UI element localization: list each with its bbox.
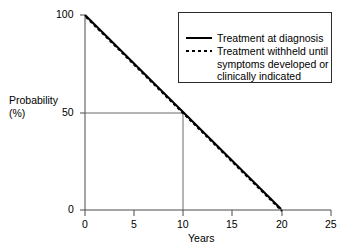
x-tick-label-20: 20 [276,219,288,230]
y-axis-title-line1: Probability [9,94,58,107]
legend-dashed-line-icon [186,45,212,56]
legend-entry-2-label-line2: symptoms developed or [217,58,328,71]
legend-entry-treatment-withheld: Treatment withheld until symptoms develo… [186,45,328,83]
chart-figure: 100 50 0 0 5 10 15 20 25 Years Probabili… [0,0,342,248]
legend-entry-2-label-block: Treatment withheld until symptoms develo… [217,45,328,83]
x-tick-label-0: 0 [82,219,88,230]
legend-solid-line-icon [186,32,212,43]
legend-entry-treatment-at-diagnosis: Treatment at diagnosis [186,32,323,45]
legend-entry-2-label-line3: clinically indicated [217,70,328,83]
legend-entry-1-label: Treatment at diagnosis [217,32,323,45]
y-tick-label-50: 50 [62,107,74,118]
x-axis-title: Years [188,232,214,244]
legend-entry-2-label-line1: Treatment withheld until [217,45,328,58]
x-tick-label-10: 10 [177,219,189,230]
x-tick-label-5: 5 [131,219,137,230]
chart-legend: Treatment at diagnosis Treatment withhel… [178,12,332,83]
y-axis-title-line2: (%) [9,107,58,120]
y-tick-label-100: 100 [56,9,74,20]
y-tick-label-0: 0 [68,204,74,215]
y-axis-title: Probability (%) [9,94,58,120]
x-tick-label-15: 15 [226,219,238,230]
x-tick-label-25: 25 [325,219,337,230]
